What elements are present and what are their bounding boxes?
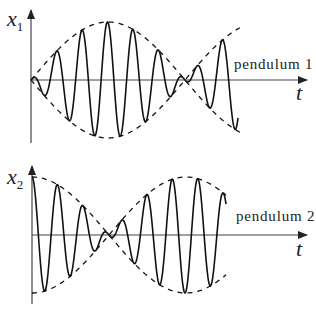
beats-diagram: x1 pendulum 1 t x2 pendulum 2 t xyxy=(0,0,316,317)
envelope-curve xyxy=(31,80,240,138)
t-axis-label-1: t xyxy=(296,80,302,106)
pendulum-1-label: pendulum 1 xyxy=(234,56,313,73)
t-axis-label-2: t xyxy=(296,236,302,262)
x2-axis-label: x2 xyxy=(7,164,23,190)
oscillation-curve xyxy=(31,22,238,136)
pendulum-2-plot xyxy=(32,166,307,304)
pendulum-1-plot xyxy=(31,10,307,143)
coupled-pendulum-plots xyxy=(0,0,316,317)
pendulum-2-label: pendulum 2 xyxy=(236,208,315,225)
x1-axis-label: x1 xyxy=(7,6,23,32)
